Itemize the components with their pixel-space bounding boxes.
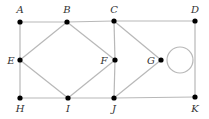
node-I — [65, 95, 70, 100]
node-A — [17, 19, 22, 24]
node-label-I: I — [65, 103, 71, 114]
edge-B-F — [67, 22, 115, 60]
node-label-J: J — [110, 103, 117, 114]
edge-J-K — [114, 97, 195, 98]
node-label-H: H — [15, 103, 25, 114]
edge-C-F — [114, 21, 115, 60]
graph-diagram: ABCDEFGHIJK — [0, 0, 209, 119]
edge-B-E — [20, 22, 67, 60]
node-label-B: B — [62, 4, 70, 15]
node-E — [17, 57, 22, 62]
node-label-D: D — [190, 4, 199, 15]
edge-F-J — [114, 60, 115, 98]
edge-E-I — [20, 60, 68, 98]
node-J — [111, 95, 116, 100]
node-G — [158, 57, 163, 62]
node-D — [192, 18, 197, 23]
node-label-E: E — [6, 55, 15, 66]
node-label-G: G — [147, 55, 155, 66]
node-B — [64, 19, 69, 24]
node-label-A: A — [15, 4, 23, 15]
edge-B-C — [67, 21, 114, 22]
node-label-F: F — [100, 55, 109, 66]
node-C — [111, 18, 116, 23]
node-K — [192, 94, 197, 99]
loop-G — [167, 47, 193, 73]
node-H — [17, 95, 22, 100]
node-F — [112, 57, 117, 62]
edges — [20, 21, 195, 98]
edge-F-I — [68, 60, 115, 98]
node-label-K: K — [190, 103, 199, 114]
node-label-C: C — [110, 4, 118, 15]
